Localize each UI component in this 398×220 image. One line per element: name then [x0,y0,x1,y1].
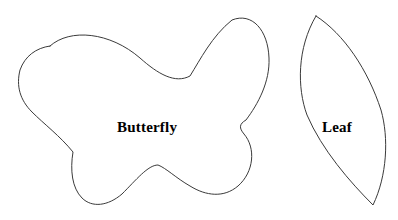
template-canvas: Butterfly Leaf [0,0,398,220]
leaf-outline[interactable] [300,16,385,205]
leaf-label: Leaf [322,120,352,135]
butterfly-label: Butterfly [117,120,177,135]
shapes-svg [0,0,398,220]
butterfly-outline[interactable] [19,18,270,204]
